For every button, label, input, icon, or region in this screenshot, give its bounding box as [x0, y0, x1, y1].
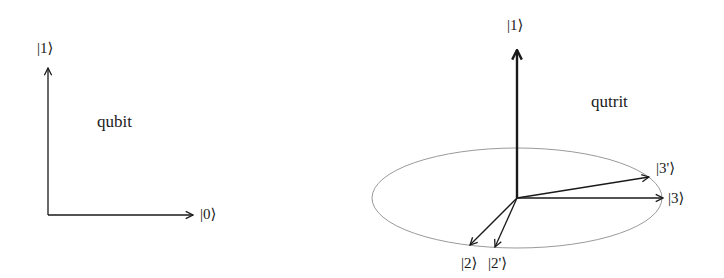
- qutrit-ket-3-label: |3⟩: [668, 191, 684, 206]
- qutrit-ket-3prime-label: |3'⟩: [656, 161, 675, 176]
- qutrit-title: qutrit: [591, 93, 628, 110]
- qubit-ket-0-label: |0⟩: [200, 207, 216, 222]
- qutrit-vector-3prime-arrow: [517, 177, 649, 198]
- qutrit-ket-1-label: |1⟩: [507, 18, 523, 33]
- qutrit-vector-2-arrow: [470, 198, 517, 245]
- qutrit-ket-2prime-label: |2'⟩: [488, 256, 507, 271]
- qubit-axes: [48, 68, 193, 215]
- qubit-ket-1-label: |1⟩: [37, 41, 53, 56]
- qutrit-ket-2-label: |2⟩: [461, 256, 477, 271]
- diagram-canvas: [0, 0, 724, 278]
- qutrit-vector-2prime-arrow: [495, 198, 517, 247]
- qubit-title: qubit: [97, 113, 132, 130]
- qutrit-axes: [372, 50, 663, 248]
